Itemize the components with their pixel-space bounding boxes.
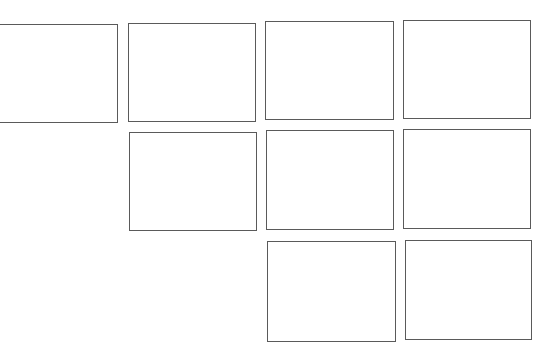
panel-row1-col4 [403, 20, 531, 119]
panel-row1-col2 [128, 23, 256, 122]
panel-grid-canvas [0, 0, 547, 354]
panel-row3-col3 [267, 241, 396, 342]
panel-row3-col4 [405, 240, 532, 340]
panel-row2-col4 [403, 129, 531, 229]
panel-row2-col2 [129, 132, 257, 231]
panel-row1-col3 [265, 21, 394, 120]
panel-row1-col1 [0, 24, 118, 123]
panel-row2-col3 [266, 130, 394, 230]
